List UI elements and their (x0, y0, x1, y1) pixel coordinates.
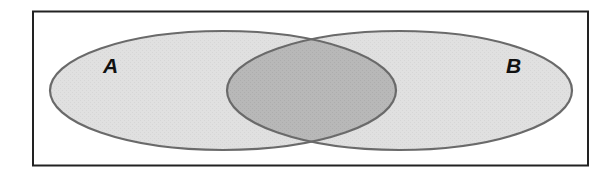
set-a-label: A (103, 55, 118, 76)
set-b-label: B (506, 55, 521, 76)
venn-diagram (0, 0, 614, 171)
